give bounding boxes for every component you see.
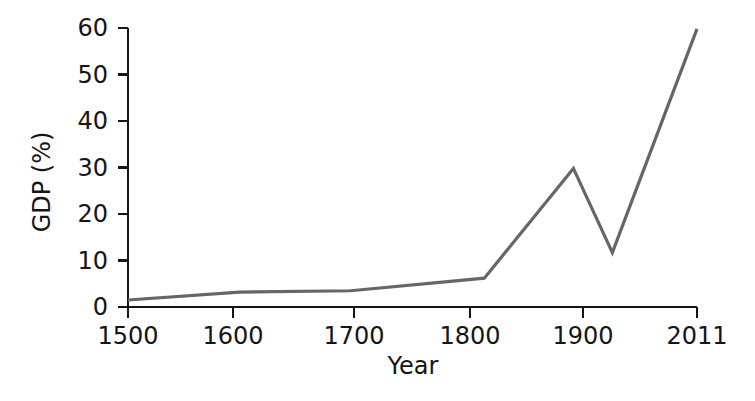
x-axis-ticks xyxy=(128,307,697,318)
x-tick-label-1800: 1800 xyxy=(439,324,500,348)
y-tick-label-30: 30 xyxy=(56,156,108,180)
y-axis-ticks xyxy=(118,28,128,307)
gdp-line-chart: 60 50 40 30 20 10 0 1500 1600 1700 1800 … xyxy=(0,0,755,401)
y-tick-label-20: 20 xyxy=(56,202,108,226)
y-axis-title: GDP (%) xyxy=(28,102,56,262)
y-tick-label-40: 40 xyxy=(56,109,108,133)
x-tick-label-2011: 2011 xyxy=(666,324,727,348)
x-tick-label-1700: 1700 xyxy=(323,324,384,348)
x-tick-label-1900: 1900 xyxy=(552,324,613,348)
x-tick-label-1500: 1500 xyxy=(97,324,158,348)
x-tick-label-1600: 1600 xyxy=(202,324,263,348)
y-tick-label-10: 10 xyxy=(56,249,108,273)
x-axis-title: Year xyxy=(128,352,698,380)
gdp-data-line xyxy=(128,29,697,300)
y-tick-label-60: 60 xyxy=(56,16,108,40)
y-tick-label-0: 0 xyxy=(56,295,108,319)
y-tick-label-50: 50 xyxy=(56,63,108,87)
